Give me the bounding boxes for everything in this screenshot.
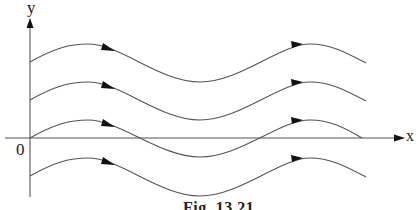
streamline-1 <box>30 41 366 82</box>
flow-arrow-icon <box>101 119 115 127</box>
y-axis-arrow-icon <box>27 18 34 28</box>
flow-arrow-icon <box>291 155 303 162</box>
flow-arrow-icon <box>291 79 303 86</box>
figure-caption: Fig. 13.21 <box>183 200 254 210</box>
x-axis-label: x <box>406 128 414 144</box>
streamline-3 <box>30 117 362 157</box>
origin-label: 0 <box>16 141 25 158</box>
flow-arrow-icon <box>101 81 115 89</box>
streamline-2 <box>30 79 366 120</box>
wave-diagram <box>0 0 419 210</box>
y-axis-label: y <box>27 0 36 16</box>
flow-arrow-icon <box>291 117 303 124</box>
streamline-4 <box>30 155 366 196</box>
flow-arrow-icon <box>291 41 303 48</box>
flow-arrow-icon <box>101 157 115 165</box>
flow-arrow-icon <box>101 43 115 51</box>
x-axis-arrow-icon <box>394 135 405 142</box>
